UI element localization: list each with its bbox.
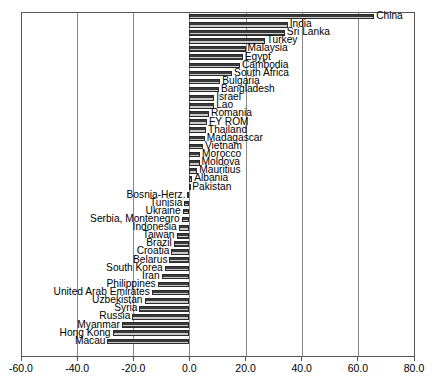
bar-row: Serbia, Montenegro — [0, 216, 436, 224]
bar-row: Taiwan — [0, 232, 436, 240]
bar — [177, 233, 190, 239]
bar-row: Macau — [0, 337, 436, 345]
bar — [189, 54, 242, 60]
x-tick-label: 20.0 — [216, 362, 276, 374]
bar — [189, 136, 204, 142]
bar — [189, 79, 220, 85]
bar — [183, 209, 190, 215]
x-tick-label: 0.0 — [159, 362, 219, 374]
x-tick-60 — [357, 356, 358, 361]
x-tick--20 — [133, 356, 134, 361]
bar — [189, 127, 206, 133]
x-tick-20 — [245, 356, 246, 361]
bar — [189, 111, 209, 117]
x-tick-0 — [189, 356, 190, 361]
bar-row: Uzbekistan — [0, 297, 436, 305]
bar — [189, 46, 245, 52]
bar — [179, 225, 190, 231]
bar-row: Belarus — [0, 256, 436, 264]
bar — [189, 95, 214, 101]
bar — [174, 241, 190, 247]
x-tick--40 — [77, 356, 78, 361]
bar — [171, 249, 189, 255]
bar-row: Egypt — [0, 53, 436, 61]
bar-row: Hong Kong — [0, 329, 436, 337]
bar — [165, 266, 190, 272]
bar-rows: ChinaIndiaSri LankaTurkeyMalaysiaEgyptCa… — [0, 0, 436, 392]
bar — [122, 322, 190, 328]
x-tick-label: -40.0 — [47, 362, 107, 374]
x-tick-label: 40.0 — [272, 362, 332, 374]
bar — [107, 339, 189, 345]
bar — [189, 87, 218, 93]
bar-row: Sri Lanka — [0, 29, 436, 37]
x-tick--60 — [21, 356, 22, 361]
bar — [189, 63, 240, 69]
bar — [152, 290, 190, 296]
bar — [189, 22, 287, 28]
bar — [189, 152, 200, 158]
bar-row: United Arab Emirates — [0, 289, 436, 297]
bar — [189, 119, 207, 125]
bar — [132, 314, 189, 320]
bar — [189, 14, 374, 20]
x-tick-label: -20.0 — [103, 362, 163, 374]
x-tick-label: 60.0 — [328, 362, 388, 374]
x-tick-label: 80.0 — [384, 362, 436, 374]
x-tick-80 — [414, 356, 415, 361]
bar-row: Iran — [0, 272, 436, 280]
bar-row: Malaysia — [0, 45, 436, 53]
x-tick-40 — [301, 356, 302, 361]
bar — [189, 160, 199, 166]
bar-row: Cambodia — [0, 61, 436, 69]
bar — [184, 201, 189, 207]
bar-row: Indonesia — [0, 224, 436, 232]
bar — [169, 257, 189, 263]
bar-row: Bulgaria — [0, 78, 436, 86]
horizontal-bar-chart: ChinaIndiaSri LankaTurkeyMalaysiaEgyptCa… — [0, 0, 436, 392]
bar — [189, 144, 202, 150]
bar-row: Croatia — [0, 248, 436, 256]
x-tick-label: -60.0 — [0, 362, 51, 374]
bar — [189, 184, 191, 190]
bar-row: India — [0, 21, 436, 29]
bar — [187, 192, 189, 198]
bar — [139, 306, 189, 312]
bar — [162, 274, 190, 280]
bar-row: China — [0, 13, 436, 21]
bar-row: South Korea — [0, 264, 436, 272]
bar-label: Macau — [75, 336, 106, 347]
bar-row: Pakistan — [0, 183, 436, 191]
bar-row: Russia — [0, 313, 436, 321]
bar — [113, 330, 190, 336]
bar-row: Turkey — [0, 37, 436, 45]
bar-row: South Africa — [0, 69, 436, 77]
bar-row: Tunisia — [0, 199, 436, 207]
bar-row: Brazil — [0, 240, 436, 248]
bar-row: Syria — [0, 305, 436, 313]
bar — [158, 282, 190, 288]
bar — [145, 298, 190, 304]
bar-row: Ukraine — [0, 207, 436, 215]
bar — [182, 217, 190, 223]
bar-row: Bosnia-Herz. — [0, 191, 436, 199]
